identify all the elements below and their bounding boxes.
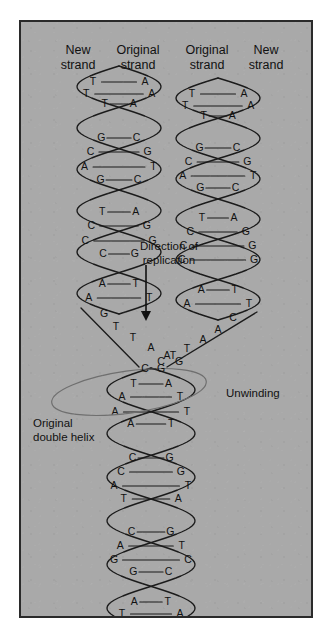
helix-left-base-right-1: A: [148, 87, 155, 99]
helix-left-base-left-8: C: [87, 219, 95, 231]
helix-left-base-left-11: A: [99, 277, 106, 289]
dna-replication-figure: TATATAGCCGATGCTACGCGCGATATGTTAAG TATATAG…: [0, 0, 332, 638]
helix-left-base-left-7: T: [99, 205, 106, 217]
annotation-unwinding-line1: Unwinding: [226, 387, 280, 399]
helix-right-unwound-base-1: A: [214, 323, 221, 335]
helix-right-unwound-base-3: T: [184, 342, 191, 354]
helix-left-base-left-10: C: [99, 247, 107, 259]
helix-parent-base-right-12: T: [165, 595, 172, 607]
helix-right-base-left-11: A: [198, 283, 205, 295]
helix-parent-base-right-9: T: [179, 539, 186, 551]
helix-right-base-right-2: A: [229, 109, 236, 121]
helix-parent-base-right-0: A: [165, 377, 172, 389]
annotation-direction-of-replication-line2: replication: [143, 254, 195, 266]
helix-right-base-right-9: G: [248, 239, 256, 251]
helix-left-backbone-b: [77, 66, 161, 314]
helix-left-unwound-base-1: T: [113, 320, 120, 332]
fork-base-right: G: [157, 362, 165, 374]
helix-right-base-left-3: G: [195, 141, 203, 153]
helix-right-base-right-7: A: [230, 211, 237, 223]
helix-right-base-right-3: C: [233, 141, 241, 153]
helix-parent-base-right-4: G: [165, 451, 173, 463]
helix-right-base-left-5: A: [179, 169, 186, 181]
helix-left-base-left-4: C: [87, 145, 95, 157]
helix-right-base-left-0: T: [189, 87, 196, 99]
helix-left-group: TATATAGCCGATGCTACGCGCGATATGTTAAG: [77, 66, 183, 367]
helix-right-group: TATATAGCCGATGCTACGCGCGATATCAATTC: [157, 78, 260, 367]
header-original-right-line2: strand: [190, 58, 225, 72]
helix-parent-base-left-11: G: [129, 565, 137, 577]
helix-right-base-left-6: G: [196, 181, 204, 193]
helix-parent-group: TAATATATCGCGATTACGATGCGCATTA: [107, 368, 195, 618]
helix-left-base-left-5: A: [81, 160, 88, 172]
figure-panel: TATATAGCCGATGCTACGCGCGATATGTTAAG TATATAG…: [19, 20, 313, 618]
helix-right-unwound-base-0: C: [229, 311, 237, 323]
helix-right-backbone-b: [176, 78, 260, 320]
helix-parent-base-right-11: C: [165, 565, 173, 577]
helix-right-base-left-8: C: [186, 225, 194, 237]
header-original-left-line1: Original: [116, 43, 159, 57]
helix-left-base-left-6: G: [96, 173, 104, 185]
header-new-right-line2: strand: [249, 58, 284, 72]
helix-parent-base-right-6: T: [185, 479, 192, 491]
helix-parent-base-right-10: C: [184, 553, 192, 565]
helix-parent-base-left-10: G: [110, 553, 118, 565]
helix-parent-base-left-7: T: [121, 492, 128, 504]
helix-left-base-right-12: T: [146, 291, 153, 303]
helix-left-base-left-3: G: [97, 131, 105, 143]
helix-left-base-right-10: G: [131, 247, 139, 259]
helix-parent-base-right-2: T: [184, 405, 191, 417]
helix-left-base-right-3: C: [133, 131, 141, 143]
helix-right-base-right-11: T: [232, 283, 239, 295]
helix-right-base-right-1: A: [247, 99, 254, 111]
helix-left-unwound-base-0: G: [100, 307, 108, 319]
helix-parent-base-left-4: C: [129, 451, 137, 463]
helix-right-base-right-0: A: [241, 87, 248, 99]
helix-left-unwound-base-3: A: [147, 341, 154, 353]
annotation-direction-of-replication-line1: Direction of: [140, 240, 199, 252]
helix-right-base-right-6: C: [232, 181, 240, 193]
header-original-left-line2: strand: [121, 58, 156, 72]
helix-left-base-right-7: A: [132, 205, 139, 217]
helix-right-base-right-12: T: [246, 297, 253, 309]
helix-left-base-left-2: T: [102, 97, 109, 109]
helix-left-base-right-8: G: [143, 219, 151, 231]
helix-left-base-right-4: G: [143, 145, 151, 157]
header-labels-group: NewstrandOriginalstrandOriginalstrandNew…: [61, 43, 284, 72]
fork-tail-1: [167, 312, 257, 367]
helix-right-base-right-10: G: [250, 253, 258, 265]
helix-parent-base-left-9: A: [117, 539, 124, 551]
helix-right-base-left-4: C: [185, 155, 193, 167]
helix-left-base-right-0: A: [142, 75, 149, 87]
helix-parent-base-right-8: G: [166, 525, 174, 537]
header-original-right-line1: Original: [185, 43, 228, 57]
helix-parent-base-left-5: C: [117, 465, 125, 477]
helix-left-base-right-6: C: [134, 173, 142, 185]
helix-parent-base-left-12: A: [131, 595, 138, 607]
annotation-original-double-helix-line1: Original: [33, 417, 73, 429]
helix-right-base-right-8: G: [242, 225, 250, 237]
header-new-left-line1: New: [65, 43, 91, 57]
fork-base-left: C: [141, 362, 149, 374]
header-new-left-line2: strand: [61, 58, 96, 72]
helix-parent-base-right-7: A: [175, 492, 182, 504]
annotation-original-double-helix-line2: double helix: [33, 431, 95, 443]
helix-left-base-left-0: T: [90, 75, 97, 87]
helix-left-base-left-9: C: [82, 234, 90, 246]
helix-parent-base-right-13: A: [177, 607, 184, 618]
helix-left-base-right-11: T: [133, 277, 140, 289]
helix-left-base-right-5: T: [150, 160, 157, 172]
helix-parent-base-left-3: A: [127, 417, 134, 429]
helix-left-base-left-1: T: [83, 87, 90, 99]
helix-left-unwound-base-2: T: [130, 331, 137, 343]
helix-left-base-right-2: A: [130, 97, 137, 109]
helix-parent-base-left-8: C: [128, 525, 136, 537]
helix-right-base-right-4: G: [243, 155, 251, 167]
helix-parent-base-right-3: T: [168, 417, 175, 429]
helix-right-base-left-1: T: [182, 99, 189, 111]
header-new-right-line1: New: [253, 43, 279, 57]
helix-right-base-left-2: T: [201, 109, 208, 121]
helix-right-base-right-5: T: [250, 169, 257, 181]
helix-parent-base-left-13: T: [119, 607, 126, 618]
helix-right-base-left-7: T: [199, 211, 206, 223]
